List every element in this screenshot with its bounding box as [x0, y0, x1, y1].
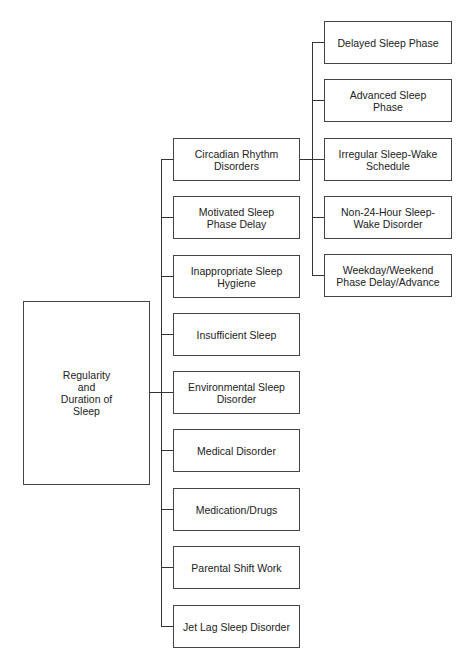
- connector: [312, 100, 324, 101]
- node-weekday-weekend-phase-delay-advance: Weekday/Weekend Phase Delay/Advance: [324, 254, 452, 297]
- connector: [161, 392, 173, 393]
- node-label: Irregular Sleep-Wake Schedule: [339, 148, 438, 172]
- node-label: Environmental Sleep Disorder: [188, 381, 285, 405]
- node-jet-lag-sleep-disorder: Jet Lag Sleep Disorder: [173, 605, 300, 648]
- connector: [161, 217, 173, 218]
- node-advanced-sleep-phase: Advanced Sleep Phase: [324, 79, 452, 122]
- node-medical-disorder: Medical Disorder: [173, 429, 300, 472]
- node-environmental-sleep-disorder: Environmental Sleep Disorder: [173, 371, 300, 414]
- root-node-label: Regularity and Duration of Sleep: [61, 369, 112, 417]
- node-delayed-sleep-phase: Delayed Sleep Phase: [324, 21, 452, 64]
- connector: [312, 275, 324, 276]
- connector: [161, 159, 173, 160]
- connector: [312, 42, 324, 43]
- node-label: Motivated Sleep Phase Delay: [199, 206, 274, 230]
- node-label: Advanced Sleep Phase: [350, 89, 426, 113]
- connector: [161, 276, 173, 277]
- node-label: Delayed Sleep Phase: [338, 37, 439, 49]
- node-medication-drugs: Medication/Drugs: [173, 488, 300, 531]
- node-non-24-hour-sleep-wake-disorder: Non-24-Hour Sleep- Wake Disorder: [324, 196, 452, 239]
- node-label: Non-24-Hour Sleep- Wake Disorder: [341, 206, 435, 230]
- connector: [312, 159, 324, 160]
- node-label: Weekday/Weekend Phase Delay/Advance: [336, 264, 439, 288]
- node-parental-shift-work: Parental Shift Work: [173, 546, 300, 589]
- node-label: Inappropriate Sleep Hygiene: [191, 265, 283, 289]
- node-motivated-sleep-phase-delay: Motivated Sleep Phase Delay: [173, 196, 300, 239]
- node-label: Parental Shift Work: [191, 562, 281, 574]
- connector: [161, 509, 173, 510]
- node-label: Circadian Rhythm Disorders: [195, 148, 278, 172]
- node-irregular-sleep-wake-schedule: Irregular Sleep-Wake Schedule: [324, 138, 452, 181]
- root-node-regularity-duration-sleep: Regularity and Duration of Sleep: [23, 301, 150, 485]
- connector: [161, 450, 173, 451]
- node-label: Insufficient Sleep: [197, 329, 277, 341]
- node-circadian-rhythm-disorders: Circadian Rhythm Disorders: [173, 138, 300, 181]
- node-insufficient-sleep: Insufficient Sleep: [173, 313, 300, 356]
- connector: [161, 626, 173, 627]
- node-label: Medical Disorder: [197, 445, 276, 457]
- node-label: Medication/Drugs: [196, 504, 278, 516]
- node-label: Jet Lag Sleep Disorder: [183, 621, 290, 633]
- node-inappropriate-sleep-hygiene: Inappropriate Sleep Hygiene: [173, 255, 300, 298]
- connector: [161, 334, 173, 335]
- connector: [161, 567, 173, 568]
- connector: [312, 217, 324, 218]
